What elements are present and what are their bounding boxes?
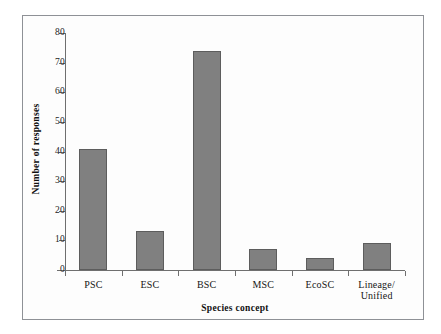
y-tick-label: 20	[43, 206, 65, 216]
y-tick-label-wrap: 80	[33, 33, 65, 34]
y-tick-label-wrap: 0	[33, 270, 65, 271]
x-tick-label: Lineage/Unified	[340, 279, 414, 301]
x-tick-mark	[405, 271, 406, 276]
x-tick-label-line: Unified	[340, 290, 414, 301]
y-tick-label: 10	[43, 235, 65, 245]
y-tick-label: 30	[43, 176, 65, 186]
x-axis-line	[57, 270, 405, 271]
y-tick-label: 70	[43, 58, 65, 68]
x-tick-mark	[122, 271, 123, 276]
y-tick-label: 40	[43, 147, 65, 157]
bar	[363, 243, 391, 270]
bar-chart: 80706050403020100 PSCESCBSCMSCEcoSCLinea…	[0, 0, 441, 334]
y-axis-line	[65, 33, 66, 271]
x-tick-mark	[178, 271, 179, 276]
y-tick-label-wrap: 70	[33, 63, 65, 64]
y-tick-label-wrap: 10	[33, 240, 65, 241]
x-axis-title: Species concept	[65, 303, 405, 313]
y-tick-label: 60	[43, 87, 65, 97]
bar	[136, 231, 164, 270]
y-tick-label: 50	[43, 117, 65, 127]
bar	[249, 249, 277, 270]
y-tick-label: 0	[43, 265, 65, 275]
bar	[79, 149, 107, 270]
x-tick-mark	[65, 271, 66, 276]
y-tick-label: 80	[43, 28, 65, 38]
x-tick-label-line: Lineage/	[340, 279, 414, 290]
x-tick-mark	[235, 271, 236, 276]
bar	[306, 258, 334, 270]
x-tick-mark	[292, 271, 293, 276]
bar	[193, 51, 221, 270]
x-tick-mark	[348, 271, 349, 276]
y-axis-title: Number of responses	[31, 69, 41, 229]
